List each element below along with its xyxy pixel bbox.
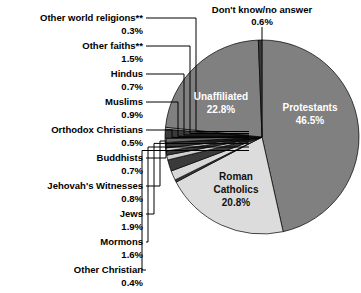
callout-mormons-pct: 1.6% xyxy=(121,249,143,260)
callout-orthodox-christians: Orthodox Christians0.5% xyxy=(51,124,143,148)
slice-label-catholics-name-2: Catholics xyxy=(213,184,258,195)
slice-label-unaffiliated-pct: 22.8% xyxy=(207,104,235,115)
callout-muslims-pct: 0.9% xyxy=(121,109,143,120)
callout-dont-know: Don't know/no answer 0.6% xyxy=(212,4,313,27)
callout-other-christian-pct: 0.4% xyxy=(121,277,143,288)
slice-label-catholics-name-1: Roman xyxy=(219,171,253,182)
pie-slice-unaffiliated[interactable] xyxy=(165,40,262,137)
callout-orthodox-christians-name: Orthodox Christians xyxy=(51,124,143,135)
callout-buddhists: Buddhists0.7% xyxy=(97,152,144,176)
callout-jews: Jews1.9% xyxy=(120,208,144,232)
callout-mormons-name: Mormons xyxy=(100,236,143,247)
callout-other-christian-name: Other Christian xyxy=(74,264,143,275)
callout-other-world-religions: Other world religions**0.3% xyxy=(40,12,143,36)
left-callouts-group: Other world religions**0.3%Other faiths*… xyxy=(40,12,143,288)
callout-muslims-name: Muslims xyxy=(105,96,143,107)
pie-chart-figure: Don't know/no answer 0.6% Other world re… xyxy=(0,0,361,293)
callout-other-faiths-name: Other faiths** xyxy=(82,40,143,51)
callout-jews-name: Jews xyxy=(120,208,143,219)
callout-other-world-religions-name: Other world religions** xyxy=(40,12,143,23)
callout-other-world-religions-pct: 0.3% xyxy=(121,25,143,36)
callout-jehovah-s-witnesses-pct: 0.8% xyxy=(121,193,143,204)
slice-label-protestants-name: Protestants xyxy=(282,102,337,113)
callout-muslims: Muslims0.9% xyxy=(105,96,144,120)
callout-other-christian: Other Christian0.4% xyxy=(74,264,144,288)
callout-buddhists-pct: 0.7% xyxy=(121,165,143,176)
callout-other-faiths-pct: 1.5% xyxy=(121,53,143,64)
callout-other-faiths: Other faiths**1.5% xyxy=(82,40,143,64)
callout-buddhists-name: Buddhists xyxy=(97,152,143,163)
callout-hindus: Hindus0.7% xyxy=(111,68,144,92)
callout-dont-know-pct: 0.6% xyxy=(251,16,273,27)
callout-jehovah-s-witnesses-name: Jehovah's Witnesses xyxy=(47,180,143,191)
pie-chart-svg: Don't know/no answer 0.6% Other world re… xyxy=(0,0,361,293)
callout-hindus-pct: 0.7% xyxy=(121,81,143,92)
callout-dont-know-name: Don't know/no answer xyxy=(212,4,313,15)
callout-orthodox-christians-pct: 0.5% xyxy=(121,137,143,148)
callout-mormons: Mormons1.6% xyxy=(100,236,143,260)
callout-jehovah-s-witnesses: Jehovah's Witnesses0.8% xyxy=(47,180,143,204)
callout-hindus-name: Hindus xyxy=(111,68,143,79)
callout-jews-pct: 1.9% xyxy=(121,221,143,232)
slice-label-unaffiliated-name: Unaffiliated xyxy=(194,91,248,102)
slice-label-protestants-pct: 46.5% xyxy=(296,115,324,126)
slice-label-catholics-pct: 20.8% xyxy=(222,197,250,208)
